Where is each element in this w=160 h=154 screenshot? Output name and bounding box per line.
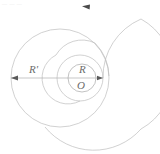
- spiral-connector-arc: [42, 40, 109, 104]
- outermost-spiral-arc: [45, 19, 160, 150]
- dimension-arrow-left-icon: [11, 76, 18, 81]
- spiral-diagram-svg: [0, 0, 160, 154]
- spiral-diagram-figure: — — — R R' O: [0, 0, 160, 154]
- label-inner-radius-R: R: [79, 64, 86, 75]
- label-center-O: O: [77, 80, 85, 91]
- spiral-direction-arrow-icon: [82, 4, 90, 9]
- dimension-arrow-right-icon: [97, 76, 103, 80]
- label-outer-radius-R-prime: R': [29, 64, 38, 75]
